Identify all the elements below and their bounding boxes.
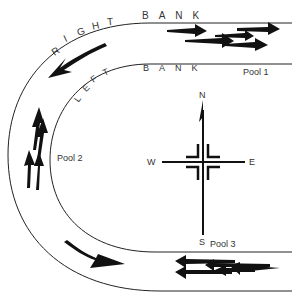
compass-south-label: S — [199, 237, 205, 247]
flow-arrow-lower — [64, 240, 125, 268]
compass-rose — [162, 100, 245, 235]
right-bank-text-5: T — [106, 16, 113, 28]
compass-east-label: E — [249, 157, 255, 167]
right-bank-word: BANK — [142, 10, 209, 21]
pool3-fish-group — [175, 255, 280, 279]
left-bank-word: BANK — [143, 63, 208, 73]
pool1-fish-group — [167, 22, 280, 51]
compass-west-label: W — [147, 157, 156, 167]
pool3-label: Pool 3 — [210, 239, 236, 249]
diagram-graphics — [0, 0, 295, 293]
pool1-label: Pool 1 — [243, 67, 269, 77]
pool2-fish-group — [24, 107, 48, 190]
compass-north-label: N — [199, 90, 206, 100]
river-bend-diagram: R I G H T BANK L E F T BANK Pool 1 Pool … — [0, 0, 295, 293]
pool2-label: Pool 2 — [57, 153, 83, 163]
